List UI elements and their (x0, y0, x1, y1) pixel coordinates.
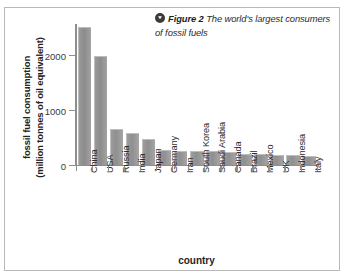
x-axis-tick (204, 166, 205, 171)
figure-container: Figure 2 The world's largest consumers o… (0, 0, 346, 279)
y-axis-title: fossil fuel consumption (million tonnes … (21, 28, 46, 188)
x-axis-category-label: Indonesia (297, 134, 307, 173)
x-axis-tick (172, 166, 173, 171)
x-axis-tick (301, 166, 302, 171)
bar-slot (109, 24, 123, 165)
x-axis-tick (236, 166, 237, 171)
bar-slot (141, 24, 155, 165)
x-axis-tick (188, 166, 189, 171)
y-axis-tick-label: 2000 (45, 50, 66, 61)
x-axis-category-label: UK (281, 160, 291, 173)
x-axis-tick (76, 166, 77, 171)
bar-slot (125, 24, 139, 165)
x-axis-title: country (75, 255, 318, 266)
y-axis-title-line2: (million tonnes of oil equivalent) (33, 28, 46, 188)
x-axis-category-label: South Korea (201, 123, 211, 173)
y-axis-title-line1: fossil fuel consumption (21, 28, 34, 188)
x-axis-category-label: Brazil (249, 151, 259, 173)
x-axis-category-label: Canada (233, 141, 243, 173)
y-axis-tick-label: 1000 (45, 105, 66, 116)
x-axis-category-label: Italy (313, 157, 323, 173)
x-axis-tick (317, 166, 318, 171)
x-axis-category-label: Russia (121, 146, 131, 173)
x-axis-category-label: USA (105, 154, 115, 173)
x-axis-tick (284, 166, 285, 171)
bar-chart-plot: fossil fuel consumption (million tonnes … (0, 0, 346, 279)
x-axis-category-label: China (89, 149, 99, 173)
x-axis-tick (124, 166, 125, 171)
x-axis-category-label: Germany (169, 136, 179, 173)
x-axis-category-label: Saudi Arabia (217, 122, 227, 173)
x-axis-tick (108, 166, 109, 171)
y-axis-tick-label: 0 (61, 160, 66, 171)
bar-slot (77, 24, 91, 165)
x-axis-tick (92, 166, 93, 171)
bar-slot (93, 24, 107, 165)
x-axis-category-label: India (137, 154, 147, 173)
x-axis-tick (156, 166, 157, 171)
y-axis-tick: 2000 (69, 55, 75, 56)
x-axis-tick (220, 166, 221, 171)
bar (78, 27, 92, 165)
y-axis-tick: 0 (69, 165, 75, 166)
x-axis-tick (252, 166, 253, 171)
bar-series (77, 24, 317, 165)
x-axis-tick (140, 166, 141, 171)
x-axis-tick (268, 166, 269, 171)
x-axis-category-label: Mexico (265, 144, 275, 173)
y-axis-tick: 1000 (69, 110, 75, 111)
x-axis-category-label: Iran (185, 158, 195, 173)
x-axis-category-label: Japan (153, 148, 163, 173)
